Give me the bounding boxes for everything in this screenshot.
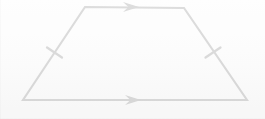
trapezoid-diagram	[0, 0, 265, 119]
geometry-figure-canvas	[0, 0, 265, 119]
left-leg-congruence-tick-icon	[47, 47, 62, 57]
